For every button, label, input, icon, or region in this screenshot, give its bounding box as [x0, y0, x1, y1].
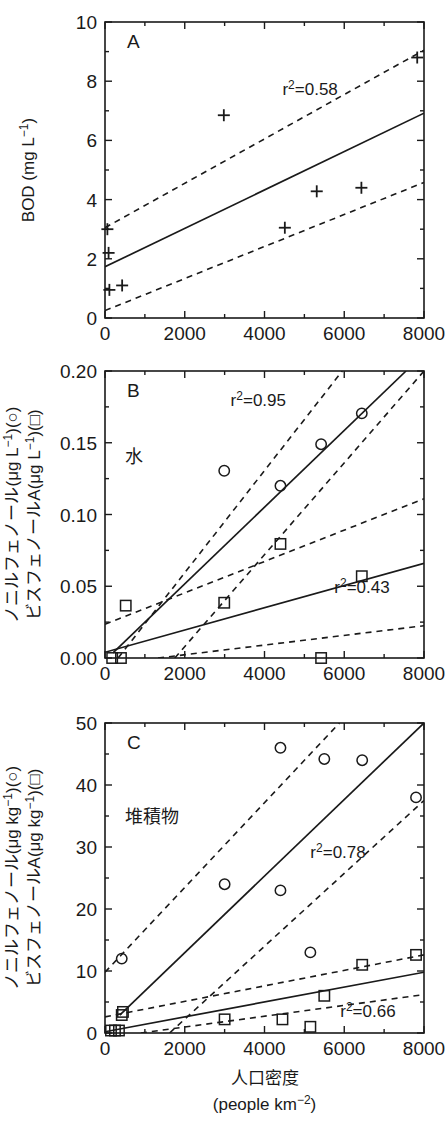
r2-b-circle: r2=0.95 [231, 389, 286, 410]
regression-a [105, 113, 424, 267]
ci-lower-c-circle [170, 801, 424, 1034]
axis-frame-A [105, 22, 424, 318]
x-axis-title-group: 人口密度(people km−2) [213, 1069, 316, 1114]
fit-line-group-A [105, 113, 424, 267]
r2-c-square: r2=0.66 [340, 1000, 395, 1021]
data-point-plus [411, 52, 423, 64]
r2-b-square: r2=0.43 [334, 576, 389, 597]
y-axis-title-A: BOD (mg L−1) [17, 118, 38, 222]
ci-upper-b-square [105, 499, 424, 625]
data-point-square [357, 960, 367, 970]
panel-letter-C: C [127, 732, 141, 753]
data-point-circle [275, 743, 285, 753]
x-tick-label: 8000 [403, 1038, 445, 1059]
series-nonylphenol-water [219, 408, 367, 491]
y-tick-label: 50 [76, 713, 97, 734]
x-tick-label: 4000 [243, 1038, 285, 1059]
y-tick-label: 0.20 [60, 361, 97, 382]
data-point-plus [218, 109, 230, 121]
data-point-plus [116, 279, 128, 291]
y-tick-label: 0 [86, 1023, 97, 1044]
x-tick-label: 4000 [243, 663, 285, 684]
x-tick-label: 0 [100, 1038, 111, 1059]
y-axis-title-line2-B: ビスフェノールA(μg L−1)(□) [23, 409, 44, 619]
y-axis-title-line1-C: ノニルフェノール(μg kg−1)(○) [1, 766, 22, 991]
data-point-plus [279, 222, 291, 234]
ci-upper-a [105, 50, 424, 228]
data-point-plus [355, 182, 367, 194]
data-point-circle [316, 439, 326, 449]
x-tick-label: 2000 [164, 1038, 206, 1059]
regression-c-circle [120, 723, 424, 1015]
y-tick-label: 2 [86, 249, 97, 270]
data-point-square [305, 1022, 315, 1032]
data-point-circle [305, 947, 315, 957]
three-panel-scatter-figure: 020004000600080000246810Ar2=0.58BOD (mg … [0, 0, 446, 1122]
ci-lower-a [105, 182, 424, 310]
y-tick-label: 0.10 [60, 505, 97, 526]
x-tick-label: 8000 [403, 663, 445, 684]
y-tick-label: 0 [86, 308, 97, 329]
fit-line-group-C [105, 723, 424, 1032]
data-point-square [121, 600, 131, 610]
ci-band-group-A [105, 50, 424, 310]
ci-lower-b-circle [175, 371, 424, 658]
data-point-circle [275, 481, 285, 491]
y-tick-label: 8 [86, 71, 97, 92]
y-tick-label: 0.00 [60, 648, 97, 669]
x-tick-label: 2000 [164, 663, 206, 684]
series-BOD [101, 52, 423, 296]
y-axis-title-line2-C: ビスフェノールA(μg kg−1)(□) [23, 769, 44, 988]
ci-upper-c-circle [105, 723, 339, 972]
series-bisphenolA-water [107, 539, 367, 663]
y-tick-label: 10 [76, 961, 97, 982]
y-tick-label: 10 [76, 12, 97, 33]
x-tick-label: 6000 [323, 663, 365, 684]
x-axis-title-units: (people km−2) [213, 1093, 316, 1114]
regression-b-square [105, 563, 424, 652]
panel-B: 020004000600080000.000.050.100.150.20B水r… [1, 361, 445, 684]
y-tick-label: 0.05 [60, 576, 97, 597]
data-point-circle [319, 754, 329, 764]
data-point-circle [219, 879, 229, 889]
panel-letter-A: A [127, 31, 140, 52]
regression-b-circle [113, 371, 406, 653]
data-point-square [219, 1014, 229, 1024]
y-tick-label: 6 [86, 130, 97, 151]
figure-root: 020004000600080000246810Ar2=0.58BOD (mg … [0, 0, 446, 1122]
data-point-circle [275, 885, 285, 895]
x-tick-label: 6000 [323, 1038, 365, 1059]
series-nonylphenol-sediment [117, 743, 422, 964]
fit-line-group-B [105, 371, 424, 653]
x-tick-label: 4000 [243, 323, 285, 344]
data-point-circle [411, 792, 421, 802]
data-point-square [277, 1014, 287, 1024]
y-tick-label: 40 [76, 775, 97, 796]
panel-C: 0200040006000800001020304050C堆積物r2=0.78r… [1, 713, 445, 1059]
inner-label-C: 堆積物 [125, 807, 179, 827]
r2-c-circle: r2=0.78 [310, 841, 365, 862]
data-point-square [411, 950, 421, 960]
x-axis-title-main: 人口密度 [231, 1069, 299, 1088]
x-tick-label: 0 [100, 323, 111, 344]
y-tick-label: 4 [86, 190, 97, 211]
y-tick-label: 30 [76, 837, 97, 858]
x-tick-label: 8000 [403, 323, 445, 344]
y-axis-title-line1-B: ノニルフェノール(μg L−1)(○) [1, 406, 22, 622]
y-tick-label: 0.15 [60, 433, 97, 454]
panel-A: 020004000600080000246810Ar2=0.58BOD (mg … [17, 12, 445, 344]
panel-letter-B: B [127, 380, 140, 401]
x-tick-label: 0 [100, 663, 111, 684]
data-point-circle [357, 755, 367, 765]
x-tick-label: 2000 [164, 323, 206, 344]
r2-a: r2=0.58 [282, 78, 337, 99]
inner-label-B: 水 [125, 447, 143, 467]
y-tick-label: 20 [76, 899, 97, 920]
x-tick-label: 6000 [323, 323, 365, 344]
data-point-circle [219, 466, 229, 476]
data-point-plus [311, 185, 323, 197]
